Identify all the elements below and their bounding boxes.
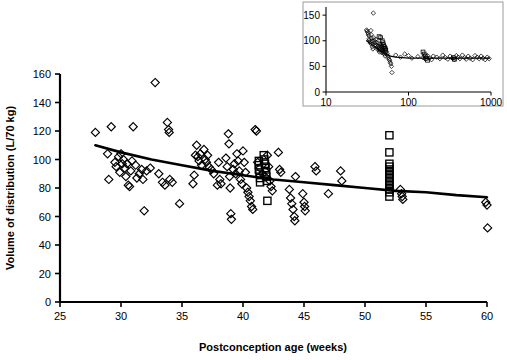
inset-y-axis-tick-label: 0 — [314, 87, 320, 98]
inset-y-axis-tick-label: 150 — [303, 10, 320, 21]
x-axis-tick-label: 40 — [237, 310, 249, 322]
y-axis-tick-label: 40 — [39, 239, 51, 251]
figure-container: 020406080100120140160 2530354045505560 V… — [0, 0, 507, 360]
inset-x-axis-tick-label: 10 — [320, 97, 332, 108]
inset-x-axis-tick-label: 100 — [400, 97, 417, 108]
y-axis-tick-label: 100 — [33, 154, 51, 166]
x-axis-tick-label: 25 — [54, 310, 66, 322]
volume-of-distribution-scatter-plot: 020406080100120140160 2530354045505560 V… — [0, 0, 507, 360]
x-axis-tick-label: 35 — [176, 310, 188, 322]
y-axis-tick-label: 140 — [33, 97, 51, 109]
y-axis-tick-label: 60 — [39, 211, 51, 223]
x-axis-tick-label: 55 — [420, 310, 432, 322]
x-axis-tick-label: 45 — [298, 310, 310, 322]
y-axis-tick-label: 20 — [39, 268, 51, 280]
inset-x-axis-tick-label: 1000 — [480, 97, 503, 108]
inset-y-axis-tick-label: 50 — [309, 61, 321, 72]
y-axis-title: Volume of distribution (L/70 kg) — [4, 106, 16, 271]
y-axis-tick-label: 160 — [33, 68, 51, 80]
y-axis-tick-label: 0 — [45, 296, 51, 308]
y-axis-tick-label: 80 — [39, 182, 51, 194]
inset-plot: 050100150 101001000 — [303, 2, 503, 108]
inset-y-axis-tick-label: 100 — [303, 35, 320, 46]
x-axis-title: Postconception age (weeks) — [199, 341, 347, 353]
y-axis-tick-label: 120 — [33, 125, 51, 137]
x-axis-tick-label: 50 — [359, 310, 371, 322]
x-axis-tick-label: 60 — [481, 310, 493, 322]
x-axis-tick-label: 30 — [115, 310, 127, 322]
